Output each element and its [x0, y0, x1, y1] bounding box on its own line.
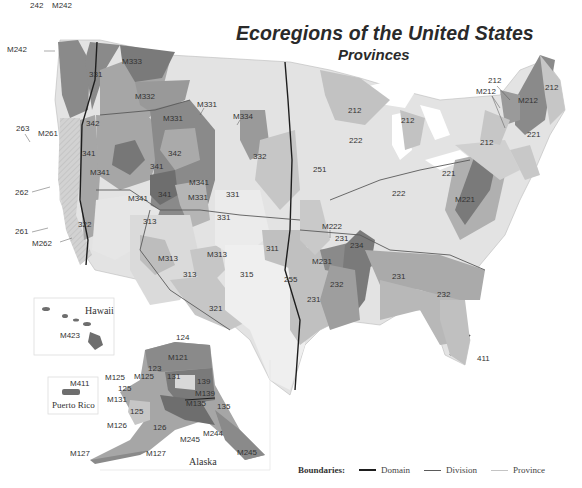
label-255: 255	[284, 275, 298, 284]
label-M127-a: M127	[70, 449, 91, 458]
legend-item-division: Division	[424, 465, 477, 475]
domain-line-swatch	[359, 469, 376, 471]
label-M244: M244	[203, 429, 224, 438]
label-212-ny: 212	[480, 138, 494, 147]
hawaii-inset: Hawaii M423	[34, 298, 114, 355]
label-M331-b: M331	[163, 114, 184, 123]
puerto-rico-label: Puerto Rico	[52, 400, 95, 410]
division-line-swatch	[424, 470, 441, 471]
label-M212-b: M212	[518, 96, 539, 105]
label-242: 242	[30, 1, 44, 10]
label-M261: M261	[38, 129, 59, 138]
label-M135: M135	[186, 399, 207, 408]
label-M125-b: M125	[134, 372, 155, 381]
label-124: 124	[176, 333, 190, 342]
label-M341-w: M341	[90, 168, 111, 177]
legend-label-division: Division	[446, 465, 477, 475]
label-313-n: 313	[143, 217, 157, 226]
legend-label-province: Province	[513, 465, 545, 475]
boundaries-legend: Boundaries: Domain Division Province	[298, 465, 559, 475]
label-M221: M221	[455, 195, 476, 204]
legend-title: Boundaries:	[298, 465, 345, 475]
label-M341-s: M341	[128, 194, 149, 203]
label-315: 315	[240, 270, 254, 279]
label-M334: M334	[233, 112, 254, 121]
label-251: 251	[313, 165, 327, 174]
label-135: 135	[217, 402, 231, 411]
label-M423: M423	[60, 331, 81, 340]
label-342-w: 342	[86, 119, 100, 128]
label-341-s: 341	[158, 190, 172, 199]
alaska-label: Alaska	[189, 456, 217, 467]
label-131: 131	[167, 372, 181, 381]
label-341-w: 341	[82, 149, 96, 158]
label-234: 234	[350, 241, 364, 250]
label-331-nw: 331	[89, 70, 103, 79]
label-232-e: 232	[437, 290, 451, 299]
label-M313-w: M313	[158, 254, 179, 263]
label-311: 311	[266, 244, 279, 253]
label-125-b: 125	[130, 407, 144, 416]
label-M242: M242	[52, 1, 73, 10]
label-231-n: 231	[335, 234, 349, 243]
label-221-ne: 221	[527, 130, 541, 139]
hawaii-label: Hawaii	[85, 305, 114, 316]
label-262: 262	[15, 188, 29, 197]
label-342-e: 342	[168, 149, 182, 158]
label-M231: M231	[312, 257, 333, 266]
label-M242-b: M242	[7, 45, 28, 54]
label-M411: M411	[70, 379, 90, 388]
label-222-s: 222	[392, 189, 406, 198]
label-M333: M333	[122, 57, 143, 66]
label-231-w: 231	[307, 295, 321, 304]
label-322: 322	[78, 220, 92, 229]
puerto-rico-inset: M411 Puerto Rico	[48, 377, 98, 414]
label-M331-a: M331	[197, 100, 218, 109]
label-321: 321	[209, 304, 223, 313]
label-126: 126	[153, 423, 167, 432]
label-M125-a: M125	[105, 373, 126, 382]
legend-label-domain: Domain	[381, 465, 410, 475]
label-341-c: 341	[150, 162, 164, 171]
florida-province	[440, 300, 470, 365]
label-212-mn: 212	[348, 106, 362, 115]
label-261: 261	[15, 227, 29, 236]
label-M126: M126	[107, 421, 128, 430]
label-263: 263	[16, 124, 30, 133]
label-231-e: 231	[392, 272, 406, 281]
label-M127-b: M127	[146, 449, 167, 458]
label-M331-c: M331	[188, 193, 209, 202]
province-line-swatch	[491, 470, 508, 471]
label-M121: M121	[168, 353, 189, 362]
label-125-a: 125	[118, 384, 132, 393]
label-M245: M245	[180, 435, 201, 444]
label-M313-e: M313	[207, 250, 228, 259]
label-222-n: 222	[349, 136, 363, 145]
label-232-w: 232	[330, 280, 344, 289]
legend-item-domain: Domain	[359, 465, 410, 475]
label-123: 123	[148, 364, 162, 373]
label-M222: M222	[322, 222, 343, 231]
label-M245-b: M245	[237, 448, 258, 457]
label-M212-a: M212	[476, 87, 497, 96]
label-M139: M139	[195, 389, 216, 398]
label-212-me: 212	[545, 83, 559, 92]
label-M341-e: M341	[189, 178, 210, 187]
label-212-mi: 212	[401, 116, 415, 125]
label-M262: M262	[32, 239, 53, 248]
label-M131: M131	[107, 395, 128, 404]
label-212-ne-a: 212	[488, 76, 502, 85]
label-411: 411	[477, 354, 490, 363]
label-331-c: 331	[226, 190, 240, 199]
legend-item-province: Province	[491, 465, 545, 475]
label-331-s: 331	[217, 213, 231, 222]
label-313-s: 313	[183, 270, 197, 279]
label-221: 221	[442, 169, 456, 178]
label-M332: M332	[135, 92, 156, 101]
ecoregion-map: 242 M242 M242 263 M261 262 261 M262 M333…	[0, 0, 582, 488]
label-139: 139	[197, 377, 211, 386]
label-332: 332	[253, 152, 267, 161]
